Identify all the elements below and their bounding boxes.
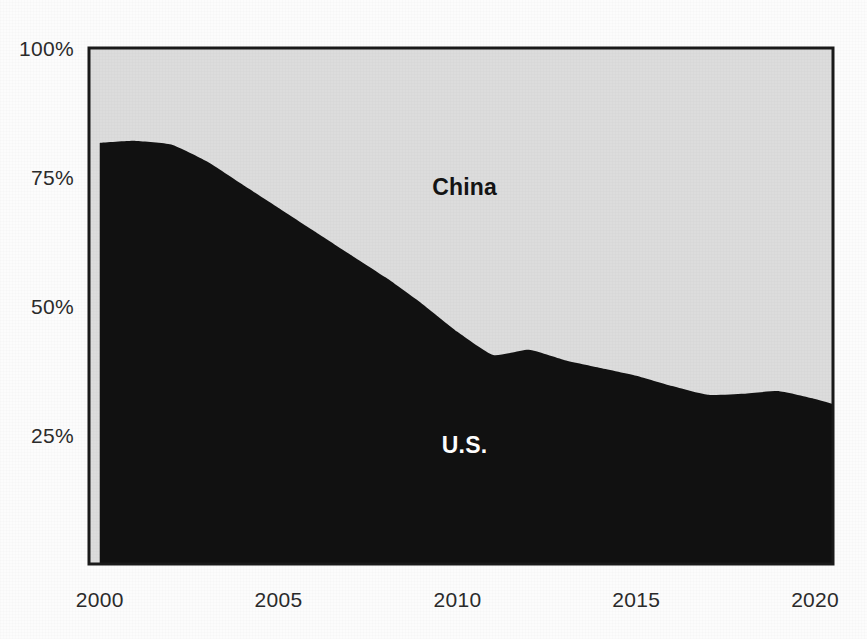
series-label-china: China bbox=[432, 174, 497, 200]
x-tick-2020: 2020 bbox=[791, 588, 839, 611]
y-axis-tick-labels: 100%75%50%25% bbox=[19, 37, 74, 447]
y-tick-50: 50% bbox=[31, 295, 74, 318]
series-label-us: U.S. bbox=[442, 432, 488, 458]
y-tick-75: 75% bbox=[31, 166, 74, 189]
y-tick-100: 100% bbox=[19, 37, 74, 60]
x-tick-2000: 2000 bbox=[76, 588, 124, 611]
x-axis-tick-labels: 20002005201020152020 bbox=[76, 588, 839, 611]
x-tick-2015: 2015 bbox=[612, 588, 660, 611]
chart-figure: China U.S. 100%75%50%25% 200020052010201… bbox=[0, 0, 867, 639]
series-areas bbox=[89, 48, 833, 564]
x-tick-2010: 2010 bbox=[433, 588, 481, 611]
area-chart: China U.S. 100%75%50%25% 200020052010201… bbox=[0, 0, 867, 639]
y-tick-25: 25% bbox=[31, 424, 74, 447]
x-tick-2005: 2005 bbox=[255, 588, 303, 611]
